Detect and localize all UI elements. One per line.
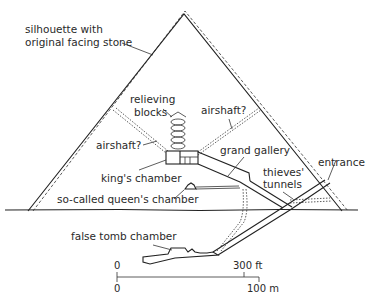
thieves-tunnels-leader bbox=[283, 192, 293, 199]
entrance-label: entrance bbox=[318, 156, 365, 168]
thieves-tunnels-label-line2: tunnels bbox=[263, 178, 302, 190]
scale-m-zero: 0 bbox=[114, 283, 120, 294]
thieves-tunnel-horizontal-2 bbox=[290, 201, 332, 203]
pyramid-cross-section-diagram: silhouette with original facing stone re… bbox=[0, 0, 368, 305]
thieves-tunnels-label-line1: thieves' bbox=[263, 166, 304, 178]
scale-ft-label: 300 ft bbox=[233, 260, 263, 271]
grand-gallery-label: grand gallery bbox=[220, 144, 290, 156]
ground-line bbox=[5, 210, 358, 211]
relieving-blocks-label-line2: blocks bbox=[134, 106, 167, 118]
kings-chamber-leader bbox=[139, 160, 166, 170]
silhouette-label-line1: silhouette with bbox=[25, 23, 103, 35]
airshaft-right-label: airshaft? bbox=[201, 104, 246, 116]
relieving-blocks-label-line1: relieving bbox=[130, 93, 175, 105]
false-tomb-chamber bbox=[143, 248, 218, 264]
silhouette-label-line2: original facing stone bbox=[25, 36, 132, 48]
descending-passage-2 bbox=[218, 183, 330, 255]
queens-chamber bbox=[185, 183, 240, 189]
kings-chamber bbox=[166, 151, 198, 164]
grand-gallery bbox=[198, 152, 250, 182]
scale-ft-zero: 0 bbox=[114, 260, 120, 271]
scale-m-label: 100 m bbox=[247, 283, 279, 294]
scale-bar bbox=[117, 272, 259, 282]
airshaft-left-label: airshaft? bbox=[96, 139, 141, 151]
false-tomb-chamber-label: false tomb chamber bbox=[71, 230, 177, 242]
false-tomb-leader bbox=[153, 245, 172, 250]
airshaft-right-leader bbox=[229, 119, 232, 129]
queens-chamber-label: so-called queen's chamber bbox=[57, 193, 199, 205]
descending-passage bbox=[213, 180, 325, 252]
relieving-blocks bbox=[170, 112, 186, 149]
kings-chamber-label: king's chamber bbox=[101, 172, 182, 184]
